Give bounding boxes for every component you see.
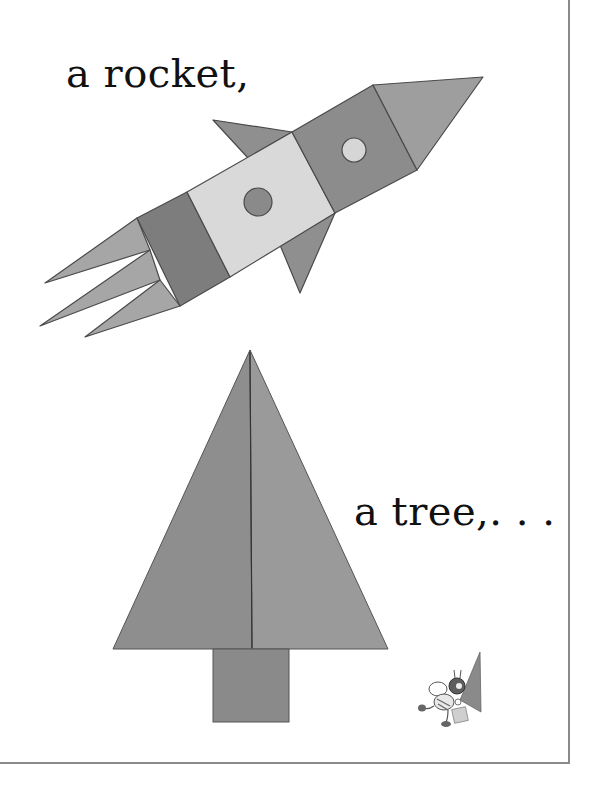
bee-character bbox=[418, 652, 481, 727]
bee-foot bbox=[441, 721, 451, 727]
illustration-canvas bbox=[0, 0, 599, 787]
rocket-illustration bbox=[40, 77, 483, 337]
bee-antenna bbox=[454, 670, 455, 678]
bee-hand bbox=[455, 699, 461, 705]
tree-trunk bbox=[213, 649, 289, 722]
bee-foot bbox=[418, 705, 426, 712]
bee-eye bbox=[456, 683, 462, 689]
tree-illustration bbox=[113, 350, 388, 722]
window-circle-dark bbox=[244, 188, 272, 216]
tree-left-half bbox=[113, 350, 252, 649]
window-circle-light bbox=[342, 138, 366, 162]
bee-leg bbox=[446, 710, 448, 722]
bee-antenna bbox=[460, 670, 461, 678]
tree-right-half bbox=[250, 350, 388, 649]
small-square bbox=[452, 707, 469, 724]
